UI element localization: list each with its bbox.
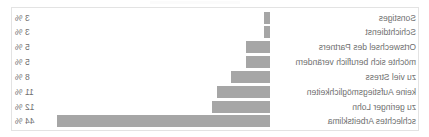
category-label: Schichtdienst [270,27,418,37]
bar [57,115,270,127]
bar-track [57,41,270,54]
bar [231,71,270,83]
category-label: keine Aufstiegsmöglichkeiten [270,87,418,97]
bar-track [57,115,270,128]
category-label: Ortswechsel des Partners [270,42,418,52]
bar [246,41,270,53]
bar [217,86,270,98]
bar-track [57,56,270,69]
bar [212,101,270,113]
value-label: 3 % [11,13,57,23]
bar [264,26,270,38]
bar-track [57,11,270,24]
category-label: schlechtes Arbeitsklima [270,116,418,126]
bar [246,56,270,68]
bar-track [57,26,270,39]
value-label: 3 % [11,27,57,37]
table-row: Sonstiges 3 % [11,11,418,24]
table-row: zu viel Stress 8 % [11,70,418,83]
value-label: 11 % [11,87,57,97]
value-label: 12 % [11,102,57,112]
value-label: 8 % [11,72,57,82]
category-label: möchte sich beruflich verändern [270,57,418,67]
bar-rows: Sonstiges 3 % Schichtdienst 3 % Ortswech… [11,8,418,131]
value-label: 44 % [11,116,57,126]
table-row: möchte sich beruflich verändern 5 % [11,56,418,69]
bar-chart: Sonstiges 3 % Schichtdienst 3 % Ortswech… [0,0,429,137]
category-label: Sonstiges [270,13,418,23]
bar-track [57,85,270,98]
bar-track [57,100,270,113]
value-label: 5 % [11,42,57,52]
mirrored-chart-canvas: Sonstiges 3 % Schichtdienst 3 % Ortswech… [0,0,429,137]
table-row: zu geringer Lohn 12 % [11,100,418,113]
value-label: 5 % [11,57,57,67]
category-label: zu geringer Lohn [270,102,418,112]
table-row: keine Aufstiegsmöglichkeiten 11 % [11,85,418,98]
category-label: zu viel Stress [270,72,418,82]
bar [264,12,270,24]
table-row: Schichtdienst 3 % [11,26,418,39]
table-row: schlechtes Arbeitsklima 44 % [11,115,418,128]
table-row: Ortswechsel des Partners 5 % [11,41,418,54]
bar-track [57,70,270,83]
